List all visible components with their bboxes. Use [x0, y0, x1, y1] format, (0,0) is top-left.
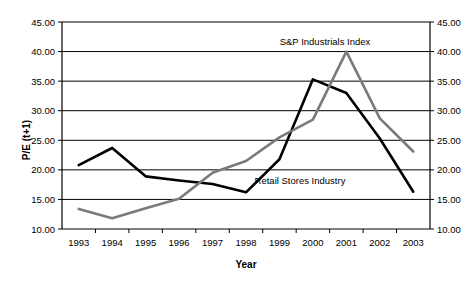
x-tick-label: 1997 — [202, 237, 223, 248]
y-tick-label: 35.00 — [31, 76, 55, 87]
series-label: S&P Industrials Index — [280, 36, 371, 47]
y-axis-title: P/E (t+1) — [21, 120, 32, 160]
y-tick-label: 15.00 — [31, 194, 55, 205]
x-tick-label: 1994 — [102, 237, 123, 248]
x-tick-label: 1996 — [169, 237, 190, 248]
x-tick-label: 2003 — [403, 237, 424, 248]
y-tick-label: 10.00 — [31, 224, 55, 235]
x-tick-label: 1999 — [269, 237, 290, 248]
y-tick-label-right: 45.00 — [437, 17, 461, 28]
y-tick-label-right: 20.00 — [437, 164, 461, 175]
x-tick-label: 2002 — [369, 237, 390, 248]
y-tick-label: 30.00 — [31, 105, 55, 116]
y-tick-label-right: 30.00 — [437, 105, 461, 116]
y-tick-label-right: 35.00 — [437, 76, 461, 87]
series-label: Retail Stores Industry — [255, 175, 346, 186]
x-tick-label: 2001 — [336, 237, 357, 248]
chart-svg: 10.0015.0020.0025.0030.0035.0040.0045.00… — [0, 0, 475, 281]
y-tick-label-right: 15.00 — [437, 194, 461, 205]
y-tick-label-right: 25.00 — [437, 135, 461, 146]
x-tick-label: 1998 — [235, 237, 256, 248]
y-tick-label-right: 10.00 — [437, 224, 461, 235]
y-tick-label: 40.00 — [31, 46, 55, 57]
x-axis-title: Year — [235, 259, 256, 270]
y-tick-label-right: 40.00 — [437, 46, 461, 57]
y-tick-label: 25.00 — [31, 135, 55, 146]
y-tick-label: 20.00 — [31, 164, 55, 175]
chart-figure: 10.0015.0020.0025.0030.0035.0040.0045.00… — [0, 0, 475, 281]
x-tick-label: 2000 — [302, 237, 323, 248]
x-tick-label: 1993 — [68, 237, 89, 248]
x-tick-label: 1995 — [135, 237, 156, 248]
y-tick-label: 45.00 — [31, 17, 55, 28]
